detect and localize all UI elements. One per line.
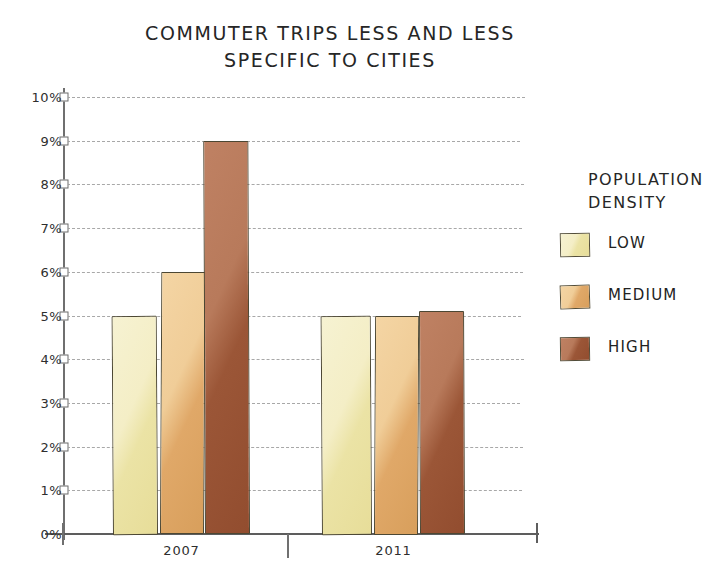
bar-2007-low bbox=[112, 315, 158, 534]
gridline bbox=[67, 228, 522, 229]
legend-swatch-medium bbox=[560, 285, 591, 310]
bar-fill bbox=[420, 312, 464, 533]
y-axis-tick-label: 4% bbox=[18, 352, 62, 367]
bar-2011-medium bbox=[374, 315, 419, 534]
y-axis-tick-label: 9% bbox=[18, 133, 62, 148]
legend-label-low: LOW bbox=[608, 234, 646, 252]
bar-2007-high bbox=[203, 141, 250, 534]
legend-title-line-2: DENSITY bbox=[588, 191, 721, 214]
bar-2011-high bbox=[419, 311, 465, 534]
legend-title: POPULATION DENSITY bbox=[588, 168, 721, 214]
x-axis-label-2011: 2011 bbox=[322, 543, 465, 558]
x-axis-label-2007: 2007 bbox=[113, 543, 250, 558]
bar-2011-low bbox=[321, 315, 372, 534]
legend-swatch-fill bbox=[561, 234, 589, 257]
y-axis-tick-label: 10% bbox=[18, 90, 62, 105]
legend-swatch-fill bbox=[561, 286, 590, 309]
x-axis-end-tick bbox=[536, 523, 538, 543]
legend-swatch-high bbox=[560, 337, 590, 361]
y-axis-tick-label: 2% bbox=[18, 439, 62, 454]
bar-fill bbox=[161, 273, 204, 533]
x-axis-start-tick bbox=[62, 523, 64, 545]
legend: POPULATION DENSITY LOWMEDIUMHIGH bbox=[556, 168, 721, 214]
y-axis-tick-label: 1% bbox=[18, 483, 62, 498]
bar-fill bbox=[204, 142, 249, 533]
gridline bbox=[67, 97, 525, 98]
legend-item-low[interactable]: LOW bbox=[556, 230, 721, 260]
bar-fill bbox=[322, 316, 371, 533]
y-axis-tick-label: 5% bbox=[18, 308, 62, 323]
legend-title-line-1: POPULATION bbox=[588, 170, 704, 189]
y-axis-tick-label: 8% bbox=[18, 177, 62, 192]
legend-item-medium[interactable]: MEDIUM bbox=[556, 282, 721, 312]
gridline bbox=[67, 141, 520, 142]
y-axis-tick-label: 0% bbox=[18, 527, 62, 542]
gridline bbox=[67, 272, 523, 273]
gridline bbox=[67, 184, 524, 185]
x-axis-group-divider-tick bbox=[287, 534, 289, 558]
legend-swatch-low bbox=[560, 233, 590, 258]
legend-label-high: HIGH bbox=[608, 338, 651, 356]
legend-item-high[interactable]: HIGH bbox=[556, 334, 721, 364]
legend-label-medium: MEDIUM bbox=[608, 286, 678, 304]
bar-fill bbox=[113, 316, 157, 533]
y-axis-tick-label: 6% bbox=[18, 264, 62, 279]
y-axis-tick-label: 7% bbox=[18, 221, 62, 236]
y-axis-tick-label: 3% bbox=[18, 395, 62, 410]
legend-swatch-fill bbox=[561, 338, 589, 360]
bar-2007-medium bbox=[160, 272, 205, 534]
bar-fill bbox=[375, 316, 418, 533]
